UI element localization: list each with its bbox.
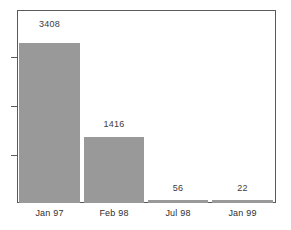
bar-value-jan-97: 3408 [19, 19, 80, 29]
bar-jan-97 [19, 43, 80, 203]
x-axis-label-jan-97: Jan 97 [19, 208, 80, 218]
bar-value-jan-99: 22 [212, 183, 273, 193]
bar-jul-98 [148, 200, 208, 203]
x-axis-label-jul-98: Jul 98 [148, 208, 208, 218]
y-axis-tick-3 [11, 155, 18, 156]
bar-feb-98 [84, 137, 144, 203]
x-axis-label-feb-98: Feb 98 [84, 208, 144, 218]
bar-chart: 3408 1416 56 22 Jan 97 Feb 98 Jul 98 Jan… [0, 0, 291, 230]
bar-value-jul-98: 56 [148, 183, 208, 193]
plot-area [18, 11, 276, 203]
x-axis-label-jan-99: Jan 99 [212, 208, 273, 218]
bar-jan-99 [212, 200, 273, 203]
y-axis-tick-2 [11, 106, 18, 107]
y-axis-tick-1 [11, 57, 18, 58]
bar-value-feb-98: 1416 [84, 119, 144, 129]
